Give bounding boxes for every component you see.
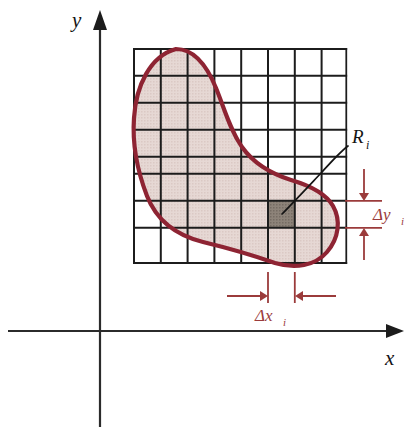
figure-container: y x <box>0 0 420 435</box>
y-axis-label: y <box>70 8 82 32</box>
delta-x-left-arrowhead <box>295 291 303 301</box>
delta-x-annotation: Δx i <box>227 272 336 328</box>
region-label-Ri: R i <box>351 126 369 152</box>
delta-y-label-subscript: i <box>401 215 404 227</box>
y-axis-arrowhead <box>93 10 107 30</box>
x-axis-label: x <box>384 346 395 370</box>
delta-y-down-arrowhead <box>359 193 369 201</box>
region-partition-diagram: y x <box>0 0 420 435</box>
x-axis-arrowhead <box>386 324 404 338</box>
region-label-subscript: i <box>366 138 369 152</box>
delta-y-up-arrowhead <box>359 228 369 236</box>
delta-y-label: Δy <box>372 205 391 224</box>
delta-x-label-subscript: i <box>283 316 286 328</box>
region-label-text: R <box>351 126 364 147</box>
delta-x-right-arrowhead <box>260 291 268 301</box>
delta-x-label: Δx <box>254 306 273 325</box>
delta-y-annotation: Δy i <box>345 169 404 260</box>
